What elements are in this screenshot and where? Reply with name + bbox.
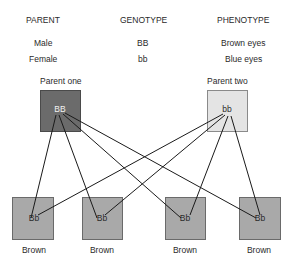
- parent-two-genotype: bb: [222, 104, 231, 114]
- row-female-genotype: bb: [138, 54, 147, 64]
- offspring-1-genotype: Bb: [29, 213, 39, 223]
- offspring-2-genotype: Bb: [97, 213, 107, 223]
- row-female-phenotype: Blue eyes: [225, 54, 262, 64]
- row-male-parent: Male: [34, 38, 52, 48]
- offspring-2-phenotype: Brown: [90, 245, 114, 255]
- offspring-4-phenotype: Brown: [247, 245, 271, 255]
- header-phenotype: PHENOTYPE: [217, 15, 269, 25]
- parent-one-label: Parent one: [40, 76, 82, 86]
- row-male-phenotype: Brown eyes: [221, 38, 265, 48]
- header-genotype: GENOTYPE: [120, 15, 167, 25]
- row-female-parent: Female: [29, 54, 57, 64]
- offspring-4-genotype: Bb: [255, 213, 265, 223]
- offspring-1-phenotype: Brown: [22, 245, 46, 255]
- offspring-3-genotype: Bb: [180, 213, 190, 223]
- parent-one-genotype: BB: [54, 104, 65, 114]
- row-male-genotype: BB: [137, 38, 148, 48]
- header-parent: PARENT: [26, 15, 60, 25]
- parent-two-label: Parent two: [207, 76, 248, 86]
- offspring-3-phenotype: Brown: [173, 245, 197, 255]
